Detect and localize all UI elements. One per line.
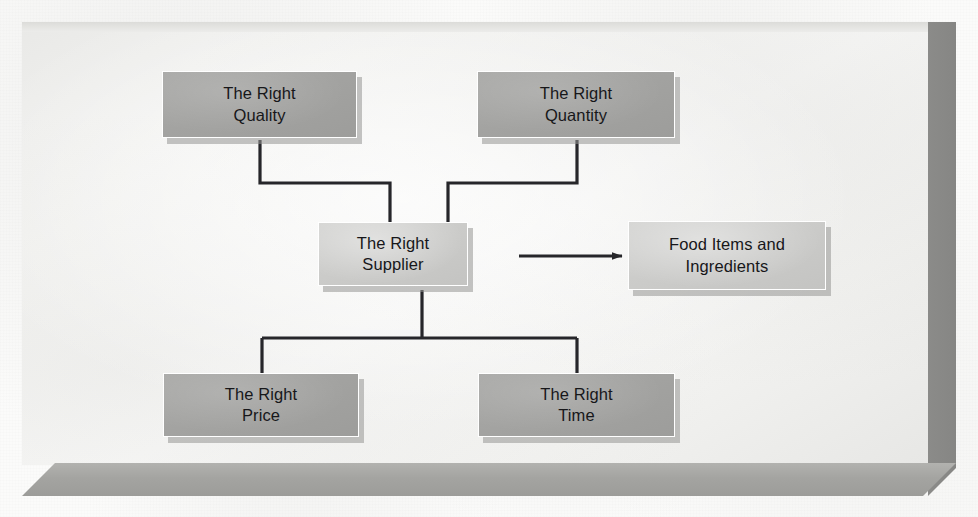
node-right-time[interactable]: The RightTime bbox=[478, 373, 675, 437]
node-right-quality-label: The RightQuality bbox=[217, 83, 301, 126]
diagram-frame-bottom-bevel bbox=[22, 463, 956, 496]
node-right-quality[interactable]: The RightQuality bbox=[162, 71, 357, 138]
node-food-items-and-ingredients-label: Food Items andIngredients bbox=[663, 234, 791, 277]
node-right-quantity[interactable]: The RightQuantity bbox=[477, 71, 675, 138]
figure-canvas: The RightQuality The RightQuantity The R… bbox=[0, 0, 978, 517]
node-right-time-label: The RightTime bbox=[534, 384, 618, 427]
node-right-price[interactable]: The RightPrice bbox=[163, 373, 359, 437]
node-right-price-label: The RightPrice bbox=[219, 384, 303, 427]
node-right-supplier-label: The RightSupplier bbox=[351, 233, 435, 276]
node-food-items-and-ingredients[interactable]: Food Items andIngredients bbox=[628, 221, 826, 290]
node-right-quantity-label: The RightQuantity bbox=[534, 83, 618, 126]
node-right-supplier[interactable]: The RightSupplier bbox=[318, 222, 468, 286]
diagram-frame-top-edge bbox=[22, 22, 928, 32]
